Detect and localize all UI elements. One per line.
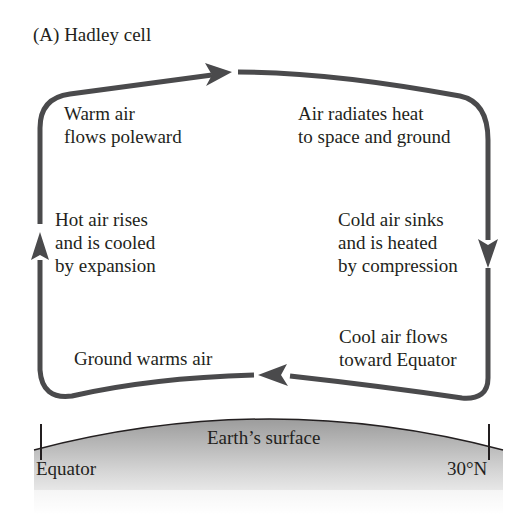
arrow-up-icon: [31, 232, 49, 260]
label-warm-air-flows-poleward: Warm air flows poleward: [64, 102, 182, 148]
label-hot-air-rises: Hot air rises and is cooled by expansion: [55, 208, 156, 277]
loop-top-left: [40, 75, 212, 224]
label-ground-warms-air: Ground warms air: [74, 347, 212, 370]
arrow-down-icon: [478, 239, 498, 268]
label-cool-air-flows: Cool air flows toward Equator: [339, 325, 457, 371]
label-air-radiates-heat: Air radiates heat to space and ground: [298, 102, 450, 148]
loop-bottom-left: [40, 260, 254, 396]
arrow-left-icon: [258, 364, 288, 386]
latitude-30n-label: 30°N: [447, 458, 487, 480]
label-cold-air-sinks: Cold air sinks and is heated by compress…: [338, 208, 458, 277]
equator-label: Equator: [36, 458, 96, 480]
earth-surface-label: Earth’s surface: [207, 427, 320, 449]
